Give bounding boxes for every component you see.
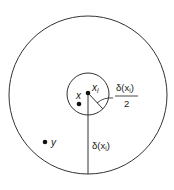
leader-curve [97,98,113,103]
label-xi: xi [91,82,99,94]
point-xi [86,91,91,96]
label-y: y [50,137,57,148]
point-y [43,140,48,145]
label-x: x [75,90,82,101]
outer-radius-label: δ(xi) [92,140,110,152]
inner-radius-numerator: δ(xi) [116,82,134,94]
point-x [77,102,82,107]
neighborhood-diagram: xi x y δ(xi) 2 δ(xi) [0,0,174,190]
inner-radius-line [88,93,103,109]
inner-radius-denominator: 2 [124,98,129,109]
